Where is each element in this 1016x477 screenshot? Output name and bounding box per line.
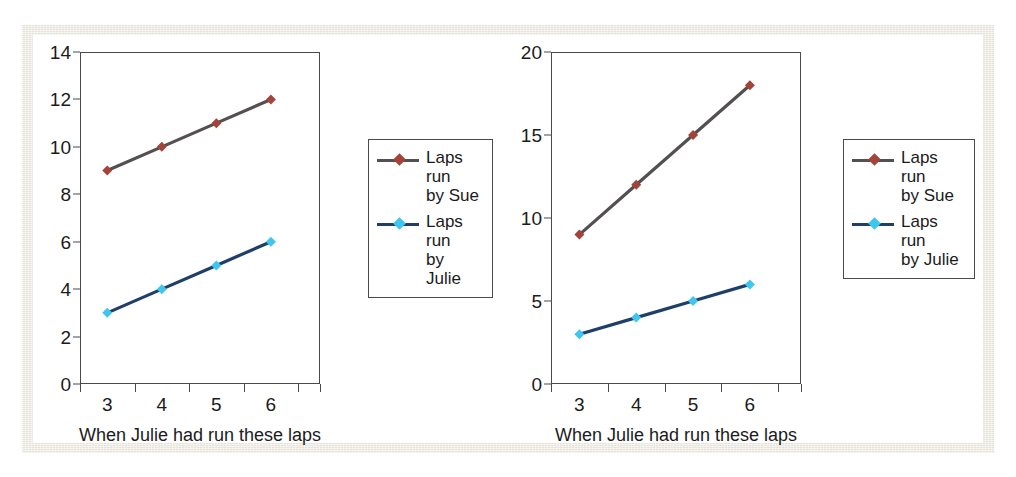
data-point-marker — [266, 94, 276, 104]
y-tick-mark — [544, 135, 551, 136]
y-tick-label: 0 — [531, 375, 542, 394]
y-tick-label: 5 — [531, 292, 542, 311]
y-tick-mark — [544, 218, 551, 219]
figure-root: 02468101214 3456 When Julie had run thes… — [0, 0, 1016, 477]
legend-left: Laps run by Sue Laps run by Julie — [368, 139, 493, 298]
legend-swatch-sue-icon — [377, 150, 419, 170]
x-tick-label: 6 — [266, 395, 277, 414]
legend-item-julie[interactable]: Laps run by Julie — [377, 212, 482, 288]
y-tick-label: 4 — [60, 280, 71, 299]
x-tick-label: 3 — [102, 395, 113, 414]
y-tick-label: 8 — [60, 185, 71, 204]
x-tick-mark — [298, 384, 299, 392]
y-tick-label: 20 — [521, 43, 542, 62]
series-line — [107, 242, 271, 313]
legend-label-sue: Laps run by Sue — [426, 148, 482, 205]
x-tick-mark — [608, 384, 609, 392]
y-tick-mark — [73, 241, 80, 242]
y-tick-mark — [73, 384, 80, 385]
series-line — [107, 99, 271, 170]
y-tick-label: 2 — [60, 327, 71, 346]
x-tick-label: 4 — [631, 395, 642, 414]
legend-item-julie[interactable]: Laps run by Julie — [852, 212, 964, 269]
chart-pair: 02468101214 3456 When Julie had run thes… — [33, 35, 983, 443]
x-tick-mark — [135, 384, 136, 392]
data-point-marker — [631, 313, 641, 323]
plot-wrapper-left: 02468101214 3456 When Julie had run thes… — [80, 52, 320, 384]
data-point-marker — [688, 296, 698, 306]
legend-item-sue[interactable]: Laps run by Sue — [852, 148, 964, 205]
y-tick-label: 15 — [521, 126, 542, 145]
x-tick-label: 3 — [574, 395, 585, 414]
y-tick-label: 10 — [521, 209, 542, 228]
y-tick-mark — [73, 99, 80, 100]
series-line — [579, 85, 749, 234]
data-point-marker — [266, 237, 276, 247]
x-tick-label: 6 — [745, 395, 756, 414]
y-tick-label: 0 — [60, 375, 71, 394]
series-layer-right — [551, 52, 801, 384]
data-point-marker — [211, 118, 221, 128]
legend-label-sue: Laps run by Sue — [901, 148, 964, 205]
legend-right: Laps run by Sue Laps run by Julie — [843, 139, 975, 279]
legend-label-julie: Laps run by Julie — [426, 212, 482, 288]
y-tick-mark — [73, 146, 80, 147]
data-point-marker — [211, 260, 221, 270]
legend-item-sue[interactable]: Laps run by Sue — [377, 148, 482, 205]
x-tick-mark — [320, 384, 321, 392]
x-tick-label: 5 — [211, 395, 222, 414]
x-tick-mark — [551, 384, 552, 392]
x-axis-label-left: When Julie had run these laps — [79, 426, 321, 444]
x-tick-mark — [80, 384, 81, 392]
data-point-marker — [157, 284, 167, 294]
data-point-marker — [745, 279, 755, 289]
x-tick-mark — [778, 384, 779, 392]
plot-wrapper-right: 05101520 3456 When Julie had run these l… — [551, 52, 801, 384]
x-axis-label-right: When Julie had run these laps — [555, 426, 797, 444]
y-tick-mark — [544, 52, 551, 53]
x-tick-mark — [801, 384, 802, 392]
legend-swatch-julie-icon — [852, 214, 894, 234]
y-tick-label: 10 — [50, 137, 71, 156]
x-tick-mark — [244, 384, 245, 392]
y-tick-label: 12 — [50, 90, 71, 109]
y-tick-label: 14 — [50, 43, 71, 62]
x-tick-mark — [189, 384, 190, 392]
y-tick-mark — [544, 384, 551, 385]
data-point-marker — [157, 142, 167, 152]
legend-label-julie: Laps run by Julie — [901, 212, 964, 269]
legend-swatch-julie-icon — [377, 214, 419, 234]
legend-swatch-sue-icon — [852, 150, 894, 170]
data-point-marker — [102, 308, 112, 318]
y-tick-mark — [73, 52, 80, 53]
y-tick-label: 6 — [60, 232, 71, 251]
y-tick-mark — [73, 194, 80, 195]
x-tick-label: 4 — [157, 395, 168, 414]
chart-right: 05101520 3456 When Julie had run these l… — [508, 35, 983, 443]
data-point-marker — [574, 329, 584, 339]
x-tick-mark — [665, 384, 666, 392]
series-line — [579, 284, 749, 334]
series-layer-left — [80, 52, 320, 384]
y-tick-mark — [73, 336, 80, 337]
x-tick-label: 5 — [688, 395, 699, 414]
data-point-marker — [102, 166, 112, 176]
chart-left: 02468101214 3456 When Julie had run thes… — [33, 35, 508, 443]
y-tick-mark — [544, 301, 551, 302]
y-tick-mark — [73, 289, 80, 290]
x-tick-mark — [721, 384, 722, 392]
